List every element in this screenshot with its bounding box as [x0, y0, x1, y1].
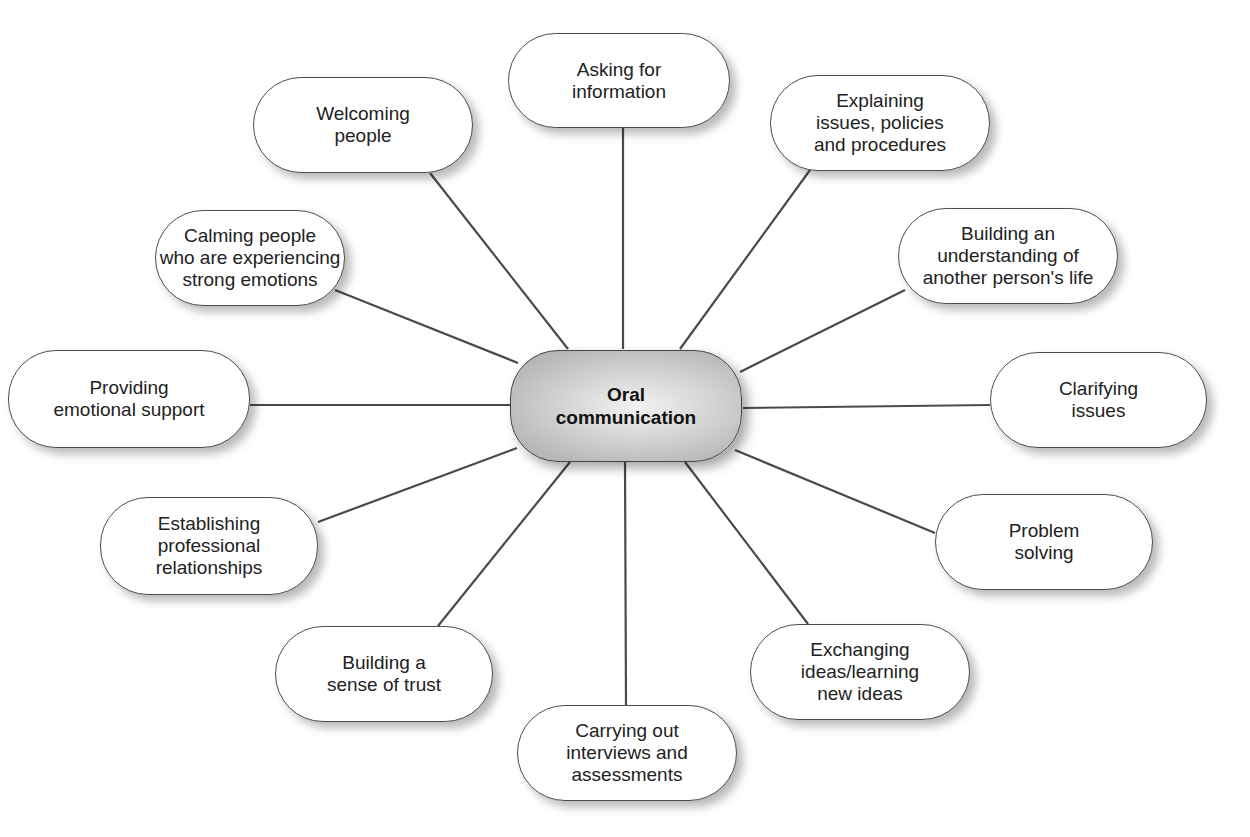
connector-line-welcoming — [430, 173, 568, 349]
node-label: Providing emotional support — [53, 377, 204, 421]
mind-map-diagram: Oral communication Asking for informatio… — [0, 0, 1250, 837]
node-building-understanding: Building an understanding of another per… — [898, 208, 1118, 304]
node-label: Calming people who are experiencing stro… — [160, 225, 341, 291]
central-node-oral-communication: Oral communication — [510, 350, 742, 462]
node-label: Exchanging ideas/learning new ideas — [801, 639, 919, 705]
connector-line-problem — [735, 450, 935, 533]
node-label: Explaining issues, policies and procedur… — [814, 90, 946, 156]
node-clarifying-issues: Clarifying issues — [990, 352, 1207, 448]
node-label: Building a sense of trust — [327, 652, 441, 696]
node-carrying-out-interviews: Carrying out interviews and assessments — [517, 705, 737, 801]
node-asking-for-information: Asking for information — [508, 33, 730, 128]
node-building-trust: Building a sense of trust — [275, 626, 493, 722]
connector-line-clarifying — [743, 405, 990, 408]
node-label: Establishing professional relationships — [156, 513, 263, 579]
node-label: Clarifying issues — [1059, 378, 1138, 422]
connector-line-explaining — [680, 170, 810, 349]
node-explaining-issues: Explaining issues, policies and procedur… — [770, 75, 990, 171]
node-label: Problem solving — [1009, 520, 1080, 564]
connector-line-exchanging — [685, 462, 808, 624]
node-label: Carrying out interviews and assessments — [566, 720, 687, 786]
node-establishing-relationships: Establishing professional relationships — [100, 497, 318, 595]
connector-line-establishing — [318, 448, 517, 522]
connector-line-carrying — [625, 462, 626, 705]
central-node-label: Oral communication — [556, 383, 696, 429]
connector-line-calming — [335, 290, 518, 363]
node-label: Welcoming people — [316, 103, 410, 147]
node-problem-solving: Problem solving — [935, 494, 1153, 590]
node-label: Building an understanding of another per… — [923, 223, 1094, 289]
node-label: Asking for information — [572, 59, 666, 103]
node-providing-emotional-support: Providing emotional support — [8, 350, 250, 448]
connector-line-understanding — [740, 290, 905, 372]
connector-line-trust — [438, 462, 570, 626]
node-calming-people: Calming people who are experiencing stro… — [155, 210, 345, 306]
node-exchanging-ideas: Exchanging ideas/learning new ideas — [750, 624, 970, 720]
node-welcoming-people: Welcoming people — [253, 77, 473, 173]
